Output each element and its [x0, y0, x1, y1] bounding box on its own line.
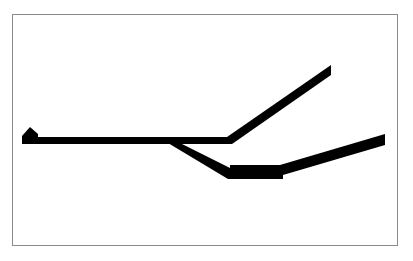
lower-branch [280, 134, 385, 175]
lower-diagonal [168, 143, 236, 179]
thick-segment [230, 165, 283, 179]
upper-branch [226, 65, 331, 144]
track-diagram [0, 0, 413, 261]
main-line [22, 137, 230, 144]
